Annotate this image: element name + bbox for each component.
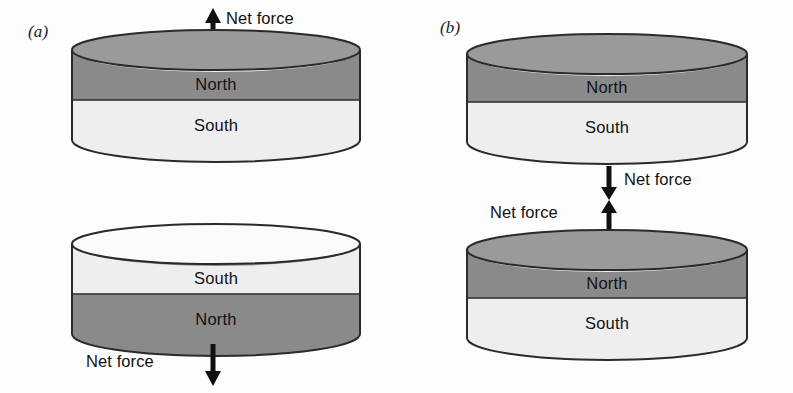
arrow-down-icon bbox=[600, 166, 618, 200]
panel-label-b: (b) bbox=[440, 18, 460, 38]
pole-label-south: South bbox=[70, 116, 362, 135]
pole-label-north: North bbox=[465, 274, 749, 293]
magnet-a-upper: North South bbox=[70, 28, 362, 170]
force-label-a-top: Net force bbox=[226, 9, 294, 28]
panel-label-a: (a) bbox=[28, 22, 48, 42]
force-label-a-bottom: Net force bbox=[86, 352, 154, 371]
force-label-b-lower: Net force bbox=[490, 203, 558, 222]
pole-label-north: North bbox=[70, 75, 362, 94]
magnet-a-lower: South North bbox=[70, 222, 362, 364]
magnet-b-lower: North South bbox=[465, 228, 749, 368]
pole-label-south: South bbox=[465, 314, 749, 333]
arrow-down-icon bbox=[204, 344, 222, 386]
magnet-force-figure: (a) Net force North South bbox=[0, 0, 793, 393]
magnet-b-upper: North South bbox=[465, 32, 749, 172]
pole-label-north: North bbox=[465, 78, 749, 97]
pole-label-south: South bbox=[70, 269, 362, 288]
pole-label-north: North bbox=[70, 310, 362, 329]
force-label-b-upper: Net force bbox=[624, 170, 692, 189]
pole-label-south: South bbox=[465, 118, 749, 137]
